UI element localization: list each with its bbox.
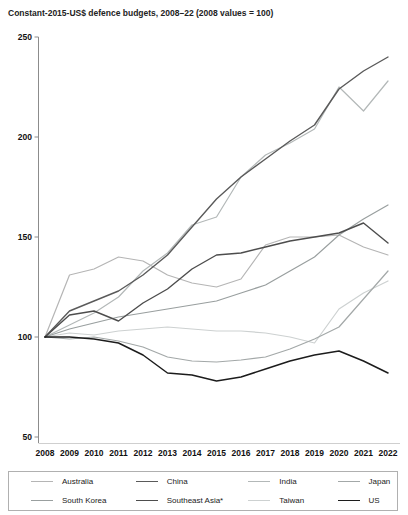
y-tick-label: 100 xyxy=(18,332,32,342)
x-tick-label: 2019 xyxy=(305,448,324,458)
legend-swatch xyxy=(248,500,270,501)
legend-swatch xyxy=(338,481,360,482)
series-line-australia xyxy=(45,235,388,337)
series-line-india xyxy=(45,81,388,337)
legend-label: Taiwan xyxy=(279,496,304,505)
legend-item-japan: Japan xyxy=(316,477,397,486)
legend-label: India xyxy=(279,477,296,486)
series-line-south-korea xyxy=(45,205,388,337)
legend-swatch xyxy=(31,481,53,482)
series-line-southeast-asia- xyxy=(45,223,388,337)
x-tick-label: 2018 xyxy=(281,448,300,458)
chart-canvas: 5010015020025020082009201020112012201320… xyxy=(0,0,408,468)
series-line-china xyxy=(45,57,388,337)
legend-item-china: China xyxy=(114,477,227,486)
legend-item-south-korea: South Korea xyxy=(9,496,114,505)
legend-item-southeast-asia-: Southeast Asia* xyxy=(114,496,227,505)
x-tick-label: 2015 xyxy=(207,448,226,458)
legend-swatch xyxy=(248,481,270,482)
legend-item-india: India xyxy=(226,477,315,486)
x-tick-label: 2013 xyxy=(158,448,177,458)
legend-item-us: US xyxy=(316,496,397,505)
x-tick-label: 2008 xyxy=(36,448,55,458)
legend-swatch xyxy=(136,500,158,501)
y-tick-label: 150 xyxy=(18,232,32,242)
x-tick-label: 2014 xyxy=(183,448,202,458)
y-tick-label: 250 xyxy=(18,32,32,42)
legend-swatch xyxy=(136,481,158,482)
chart-page: { "title": "Constant-2015-US$ defence bu… xyxy=(0,0,408,515)
x-tick-label: 2022 xyxy=(379,448,398,458)
legend-item-australia: Australia xyxy=(9,477,114,486)
legend-label: Southeast Asia* xyxy=(167,496,223,505)
legend-label: Japan xyxy=(369,477,391,486)
y-tick-label: 50 xyxy=(23,432,33,442)
legend-swatch xyxy=(338,500,360,501)
legend-swatch xyxy=(31,500,53,501)
legend-label: China xyxy=(167,477,188,486)
legend-item-taiwan: Taiwan xyxy=(226,496,315,505)
x-tick-label: 2012 xyxy=(134,448,153,458)
x-tick-label: 2011 xyxy=(109,448,128,458)
x-tick-label: 2020 xyxy=(330,448,349,458)
line-chart: 5010015020025020082009201020112012201320… xyxy=(0,0,408,468)
x-tick-label: 2017 xyxy=(256,448,275,458)
legend-label: US xyxy=(369,496,380,505)
x-tick-label: 2010 xyxy=(85,448,104,458)
x-tick-label: 2021 xyxy=(354,448,373,458)
y-tick-label: 200 xyxy=(18,132,32,142)
series-line-japan xyxy=(45,271,388,362)
series-line-us xyxy=(45,337,388,381)
x-tick-label: 2009 xyxy=(60,448,79,458)
legend-label: South Korea xyxy=(62,496,106,505)
chart-legend: AustraliaChinaIndiaJapanSouth KoreaSouth… xyxy=(8,471,398,511)
x-tick-label: 2016 xyxy=(232,448,251,458)
legend-label: Australia xyxy=(62,477,93,486)
